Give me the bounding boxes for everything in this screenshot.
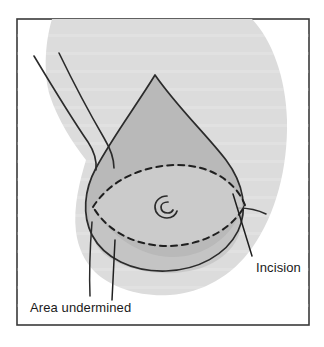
incision-label: Incision [256, 260, 301, 275]
breast-incision-diagram: Incision Area undermined [0, 0, 324, 347]
area-undermined-label: Area undermined [30, 300, 131, 315]
figure-root: Incision Area undermined [0, 0, 324, 347]
